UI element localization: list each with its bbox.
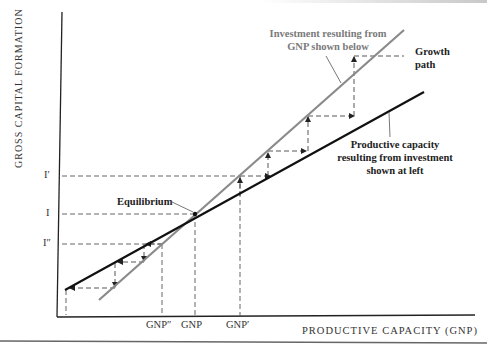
capacity-annotation-line-2: resulting from investment — [335, 151, 455, 164]
equilibrium-label: Equilibrium — [117, 195, 172, 208]
investment-line-annotation: Investment resulting from GNP shown belo… — [258, 27, 398, 53]
investment-leader — [326, 56, 341, 83]
capacity-leader — [389, 112, 390, 137]
equilibrium-leader — [172, 202, 193, 212]
decline-staircase — [70, 244, 162, 288]
investment-annotation-line-2: GNP shown below — [258, 40, 398, 53]
x-axis — [57, 315, 475, 317]
capacity-line-annotation: Productive capacity resulting from inves… — [335, 138, 455, 177]
investment-annotation-line-1: Investment resulting from — [258, 27, 398, 40]
growth-path-line-1: Growth — [415, 45, 450, 58]
y-axis-label: GROSS CAPITAL FORMATION — [13, 8, 24, 168]
y-tick-I-double-prime: I″ — [43, 237, 51, 248]
growth-path-annotation: Growth path — [415, 45, 450, 71]
leader-lines — [172, 56, 390, 212]
x-tick-GNP: GNP — [181, 319, 202, 330]
growth-path-line-2: path — [415, 58, 450, 71]
capacity-annotation-line-1: Productive capacity — [335, 138, 455, 151]
y-axis — [57, 12, 62, 317]
productive-capacity-line — [65, 92, 424, 290]
capacity-annotation-line-3: shown at left — [335, 164, 455, 177]
x-tick-GNP-prime: GNP′ — [226, 319, 249, 330]
y-tick-I: I — [46, 207, 50, 218]
bottom-rule — [0, 341, 487, 343]
x-axis-label: PRODUCTIVE CAPACITY (GNP) — [302, 325, 478, 336]
equilibrium-point — [193, 212, 197, 216]
x-tick-GNP-double-prime: GNP″ — [146, 319, 171, 330]
y-tick-I-prime: I′ — [44, 169, 50, 180]
